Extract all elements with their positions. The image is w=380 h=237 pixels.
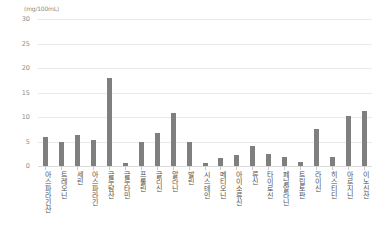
bar-slot <box>38 19 54 166</box>
x-axis-label-slot: 이노신산 <box>356 171 372 237</box>
bar-slot <box>308 19 324 166</box>
bar <box>139 142 144 166</box>
bar-slot <box>149 19 165 166</box>
bar-slot <box>165 19 181 166</box>
bar <box>155 133 160 166</box>
x-axis-tick-mark <box>125 166 126 170</box>
x-axis-tick-label: 라이신 <box>313 171 321 192</box>
x-axis-tick-slot <box>245 166 261 170</box>
y-axis-tick-label: 30 <box>14 16 30 23</box>
x-axis-tick-slot <box>181 166 197 170</box>
x-axis-label-slot: 시스테인 <box>197 171 213 237</box>
bar <box>346 116 351 166</box>
x-axis-tick-label: 히스티딘 <box>328 171 336 199</box>
x-axis-tick-label: 세린 <box>74 171 82 185</box>
x-axis-tick-mark <box>173 166 174 170</box>
x-axis-label-slot: 트레오닌 <box>54 171 70 237</box>
x-axis-tick-mark <box>93 166 94 170</box>
bar-slot <box>54 19 70 166</box>
x-axis-label-slot: 아스파라긴 <box>86 171 102 237</box>
bar-slot <box>70 19 86 166</box>
bar-chart: (mg/100mL) 302520151050 아스파라긴산트레오닌세린아스파라… <box>0 0 380 237</box>
plot-area: 302520151050 <box>38 19 372 166</box>
x-axis-label-slot: 아르지닌 <box>340 171 356 237</box>
x-axis-tick-slot <box>308 166 324 170</box>
x-axis-tick-label: 아이소류신 <box>233 171 241 206</box>
x-axis-tick-slot <box>261 166 277 170</box>
y-axis-tick-label: 20 <box>14 65 30 72</box>
x-axis-tick-mark <box>141 166 142 170</box>
bar-slot <box>118 19 134 166</box>
bar-slot <box>324 19 340 166</box>
x-axis-tick-slot <box>340 166 356 170</box>
y-axis-tick-label: 5 <box>14 139 30 146</box>
x-axis-tick-mark <box>109 166 110 170</box>
bar-slot <box>181 19 197 166</box>
bar <box>282 157 287 166</box>
bar-slot <box>229 19 245 166</box>
bar-slot <box>356 19 372 166</box>
bar <box>75 135 80 166</box>
x-axis-tick-mark <box>189 166 190 170</box>
bar <box>218 158 223 166</box>
bar-slot <box>245 19 261 166</box>
x-axis-tick-label: 타이로신 <box>265 171 273 199</box>
x-axis-label-slot: 히스티딘 <box>324 171 340 237</box>
bar <box>43 137 48 166</box>
x-axis-tick-mark <box>220 166 221 170</box>
y-axis-tick-label: 10 <box>14 114 30 121</box>
bar-slot <box>277 19 293 166</box>
x-axis-tick-mark <box>316 166 317 170</box>
x-axis-tick-label: 이노신산 <box>360 171 368 199</box>
x-axis-tick-label: 글루탐산 <box>106 171 114 199</box>
x-axis-tick-slot <box>356 166 372 170</box>
x-axis-tick-mark <box>252 166 253 170</box>
bar <box>362 111 367 166</box>
x-axis-tick-label: 아스파라긴 <box>90 171 98 206</box>
x-axis-tick-slot <box>70 166 86 170</box>
x-axis-label-slot: 글루타민 <box>118 171 134 237</box>
x-axis-tick-slot <box>149 166 165 170</box>
x-axis-tick-label: 시스테인 <box>201 171 209 199</box>
x-axis-label-slot: 알라닌 <box>165 171 181 237</box>
x-axis-tick-mark <box>157 166 158 170</box>
x-axis-tick-slot <box>293 166 309 170</box>
y-axis-tick-label: 15 <box>14 90 30 97</box>
x-axis-tick-mark <box>300 166 301 170</box>
bar-slot <box>261 19 277 166</box>
x-axis-label-slot: 세린 <box>70 171 86 237</box>
x-axis-tick-slot <box>229 166 245 170</box>
x-axis-tick-label: 메티오닌 <box>217 171 225 199</box>
x-axis-tick-slot <box>54 166 70 170</box>
x-axis-tick-mark <box>364 166 365 170</box>
x-axis-tick-mark <box>61 166 62 170</box>
bar <box>250 146 255 166</box>
x-axis-tick-slot <box>165 166 181 170</box>
x-axis-label-slot: 아스파라긴산 <box>38 171 54 237</box>
x-axis-tick-label: 아르지닌 <box>344 171 352 199</box>
x-axis-tick-label: 글리신 <box>154 171 162 192</box>
bar-slot <box>293 19 309 166</box>
x-axis-tick-mark <box>205 166 206 170</box>
x-axis-tick-label: 알라닌 <box>169 171 177 192</box>
x-axis-tick-mark <box>236 166 237 170</box>
x-axis-tick-labels: 아스파라긴산트레오닌세린아스파라긴글루탐산글루타민프롤린글리신알라닌발린시스테인… <box>38 171 372 237</box>
bar <box>187 142 192 166</box>
x-axis-tick-label: 트립토판 <box>297 171 305 199</box>
x-axis-tick-slot <box>213 166 229 170</box>
x-axis-tick-slot <box>86 166 102 170</box>
x-axis-tick-mark <box>284 166 285 170</box>
bar-slot <box>213 19 229 166</box>
x-axis-tick-label: 아스파라긴산 <box>42 171 50 213</box>
bar-series <box>38 19 372 166</box>
bar <box>314 129 319 166</box>
x-axis-label-slot: 라이신 <box>308 171 324 237</box>
bar <box>171 113 176 166</box>
x-axis-tick-mark <box>45 166 46 170</box>
x-axis-tick-label: 글루타민 <box>122 171 130 199</box>
x-axis-label-slot: 프롤린 <box>133 171 149 237</box>
y-axis-unit-label: (mg/100mL) <box>24 5 59 12</box>
x-axis-label-slot: 메티오닌 <box>213 171 229 237</box>
bar-slot <box>102 19 118 166</box>
bar-slot <box>197 19 213 166</box>
